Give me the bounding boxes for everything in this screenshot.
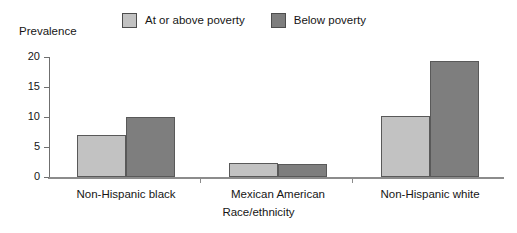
legend-label-at-or-above-poverty: At or above poverty	[145, 14, 245, 26]
y-tick-10: 10	[44, 117, 49, 118]
bar-mexican-american-at-or-above-poverty	[229, 163, 278, 177]
y-axis-line	[49, 57, 50, 177]
bar-chart-figure: At or above poverty Below poverty Preval…	[0, 0, 517, 233]
x-axis-title: Race/ethnicity	[0, 206, 517, 219]
y-tick-label-20: 20	[28, 50, 40, 63]
bar-mexican-american-below-poverty	[278, 164, 327, 177]
x-axis-line	[48, 177, 504, 179]
x-tick-1	[200, 178, 201, 183]
y-tick-20: 20	[44, 57, 49, 58]
chart-legend: At or above poverty Below poverty	[122, 11, 366, 29]
bar-non-hispanic-black-below-poverty	[126, 117, 175, 177]
y-tick-0: 0	[44, 177, 49, 178]
y-tick-15: 15	[44, 87, 49, 88]
plot-area: 0 5 10 15 20 Non-Hispanic black Mexican …	[49, 57, 504, 177]
y-tick-label-5: 5	[34, 140, 40, 153]
legend-label-below-poverty: Below poverty	[294, 14, 366, 26]
y-tick-5: 5	[44, 147, 49, 148]
bar-non-hispanic-white-at-or-above-poverty	[381, 116, 430, 177]
y-axis-title: Prevalence	[19, 25, 77, 38]
legend-item-below-poverty: Below poverty	[271, 13, 366, 28]
bar-non-hispanic-white-below-poverty	[430, 61, 479, 177]
y-tick-label-15: 15	[28, 80, 40, 93]
legend-swatch-light-icon	[122, 13, 137, 28]
x-category-label-non-hispanic-white: Non-Hispanic white	[380, 188, 479, 201]
y-tick-label-10: 10	[28, 110, 40, 123]
y-tick-label-0: 0	[34, 170, 40, 183]
x-tick-2	[352, 178, 353, 183]
legend-swatch-dark-icon	[271, 13, 286, 28]
x-category-label-non-hispanic-black: Non-Hispanic black	[76, 188, 175, 201]
x-category-label-mexican-american: Mexican American	[231, 188, 325, 201]
legend-item-at-or-above-poverty: At or above poverty	[122, 13, 245, 28]
bar-non-hispanic-black-at-or-above-poverty	[77, 135, 126, 177]
